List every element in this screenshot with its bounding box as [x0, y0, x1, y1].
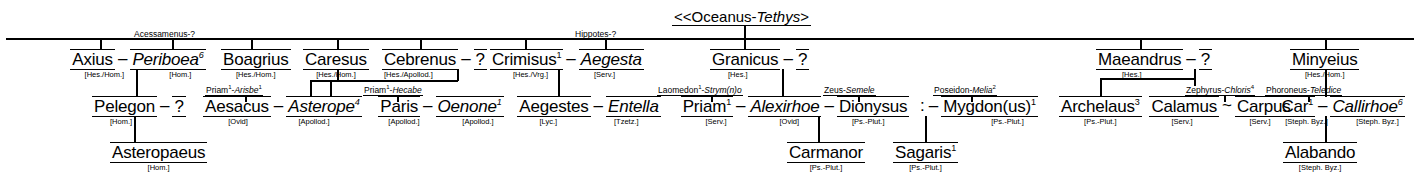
- node-car-sup: 1: [1308, 97, 1313, 107]
- node-axius-name: Axius: [70, 49, 115, 70]
- node-entella-name: Entella: [606, 96, 661, 117]
- node-carmanor: Carmanor [Ps.-Plut.]: [787, 142, 865, 172]
- connector-car-to-alabando: [1325, 116, 1327, 143]
- node-periboea-sup: 6: [199, 50, 204, 60]
- node-aegesta-name: Aegesta: [579, 49, 644, 70]
- connector-mygdon-to-sagaris: [925, 116, 927, 143]
- node-sagaris-sup: 1: [951, 143, 956, 153]
- source-car: [Steph. Byz.]: [1285, 117, 1328, 126]
- node-asterope-name: Asterope4: [286, 96, 361, 117]
- node-paris-name: Paris: [378, 96, 420, 117]
- caption-priam-hecabe-text: Priam1-Hecabe: [364, 85, 422, 95]
- node-callirhoe-name: Callirhoe6: [1330, 96, 1404, 117]
- caption-zephyrus-chloris: Zephyrus-Chloris4: [1185, 85, 1255, 96]
- caption-acessamenus-parents: Acessamenus-?: [133, 29, 196, 40]
- caption-phoroneus-teledice: Phoroneus-Teledice: [1265, 85, 1342, 96]
- caption-laomedon-strymno: Laomedon1-Strym(n)o: [657, 85, 743, 96]
- node-pelegon-name: Pelegon: [92, 96, 157, 117]
- source-cebrenus: [Hes./Apollod.]: [382, 70, 487, 79]
- caption-priam-arisbe-text: Priam1-Arisbe1: [206, 85, 262, 95]
- node-mygdon-sup: 1: [1031, 97, 1036, 107]
- union-dash-axius: –: [115, 49, 130, 68]
- union-dash-paris: –: [420, 96, 435, 115]
- node-pelegon: Pelegon–? [Hom.]: [92, 96, 186, 126]
- root-name-oceanus: Oceanus: [692, 8, 752, 25]
- source-aesacus: [Ovid]: [228, 117, 248, 126]
- connector-crimisus-to-aegestes: [558, 69, 560, 97]
- node-crimisus-sup: 1: [557, 50, 562, 60]
- source-aegestes: [Lyc.]: [539, 117, 557, 126]
- node-car-name: Car1: [1279, 96, 1315, 117]
- node-callirhoe-sup: 6: [1398, 97, 1403, 107]
- source-callirhoe: [Steph. Byz.]: [1356, 117, 1399, 126]
- node-alabando: Alabando [Steph. Byz.]: [1283, 142, 1357, 172]
- caption-poseidon-melia-text: Poseidon-Melia2: [934, 85, 996, 95]
- node-cebrenus-spouse: ?: [474, 49, 487, 70]
- caption-zeus-semele: Zeus-Semele: [823, 85, 876, 96]
- source-oenone: [Apollod.]: [462, 117, 493, 126]
- node-aegestes: Aegestes–Entella [Lyc.] [Tzetz.]: [511, 96, 667, 126]
- source-crimisus: [Hes./Vrg.]: [513, 70, 548, 79]
- node-cebrenus-name: Cebrenus: [382, 49, 458, 70]
- source-dionysus: [Ps.-Plut.]: [852, 117, 885, 126]
- source-alexirhoe: [Ovid]: [780, 117, 800, 126]
- node-mygdon-name: Mygdon(us)1: [941, 96, 1038, 117]
- union-dash-pelegon: –: [157, 96, 172, 115]
- source-sagaris: [Ps.-Plut.]: [893, 163, 958, 172]
- caption-priam-hecabe: Priam1-Hecabe: [363, 85, 423, 96]
- node-archelaus: Archelaus3 [Ps.-Plut.]: [1059, 96, 1142, 126]
- union-dash-aesacus: –: [271, 96, 286, 115]
- node-boagrius: Boagrius [Hes./Hom.]: [221, 49, 291, 79]
- caption-zephyrus-chloris-text: Zephyrus-Chloris4: [1186, 85, 1254, 95]
- source-boagrius: [Hes./Hom.]: [221, 70, 291, 79]
- node-boagrius-name: Boagrius: [221, 49, 291, 70]
- source-axius: [Hes./Hom.]: [85, 70, 125, 79]
- caption-laomedon-strymno-text: Laomedon1-Strym(n)o: [658, 85, 742, 95]
- node-asteropaeus-name: Asteropaeus: [110, 142, 207, 163]
- node-alexirhoe-name: Alexirhoe: [748, 96, 821, 117]
- source-priam: [Serv.]: [705, 117, 726, 126]
- node-granicus-spouse: ?: [796, 49, 809, 70]
- node-minyeius-name: Minyeius: [1290, 49, 1359, 70]
- source-carpus: [Serv.]: [1249, 117, 1270, 126]
- node-dionysus-name: Dionysus: [837, 96, 909, 117]
- connector-cebrenus-to-oenone: [330, 80, 332, 97]
- union-dash-granicus: –: [780, 49, 795, 68]
- union-tilde-calamus: ~: [1219, 96, 1235, 115]
- node-oenone-name: Oenone1: [436, 96, 504, 117]
- source-paris: [Apollod.]: [388, 117, 419, 126]
- node-maeandrus-name: Maeandrus: [1096, 49, 1183, 70]
- union-dash-cebrenus: –: [458, 49, 473, 68]
- node-cebrenus: Cebrenus–? [Hes./Apollod.]: [382, 49, 487, 79]
- union-dash-mygdon: –: [926, 96, 941, 115]
- node-alabando-name: Alabando: [1283, 142, 1357, 163]
- caption-hippotes-parents: Hippotes-?: [574, 29, 617, 40]
- connector-pelegon-to-asteropaeus: [134, 116, 136, 143]
- node-mygdon: :–Mygdon(us)1 [Ps.-Plut.]: [919, 96, 1038, 126]
- node-sagaris: Sagaris1 [Ps.-Plut.]: [893, 142, 958, 172]
- node-carmanor-name: Carmanor: [787, 142, 865, 163]
- node-maeandrus-spouse: ?: [1199, 49, 1212, 70]
- mygdon-prefix-colon: :: [919, 96, 926, 115]
- caption-phoroneus-teledice-text: Phoroneus-Teledice: [1266, 85, 1341, 95]
- source-granicus: [Hes.]: [710, 70, 809, 79]
- node-caresus: Caresus [Hes./Hom.]: [303, 49, 369, 79]
- root-suffix: >: [800, 8, 809, 25]
- connector-cebrenus-spouse-h: [330, 80, 458, 82]
- union-dash-priam: –: [733, 96, 748, 115]
- node-asterope-sup: 4: [355, 97, 360, 107]
- node-aesacus: Aesacus–Asterope4 [Ovid] [Apollod.]: [203, 96, 362, 126]
- root-node-oceanus-tethys: <<Oceanus-Tethys>: [672, 8, 811, 26]
- node-granicus-name: Granicus: [710, 49, 780, 70]
- connector-maeandrus-children-bus: [1100, 78, 1195, 80]
- source-caresus: [Hes./Hom.]: [303, 70, 369, 79]
- union-dash-aegestes: –: [591, 96, 606, 115]
- node-crimisus: Crimisus1–Aegesta [Hes./Vrg.] [Serv.]: [490, 49, 644, 79]
- connector-granicus-to-alexirhoe: [782, 69, 784, 97]
- connector-axius-to-pelegon: [136, 69, 138, 97]
- node-priam-name: Priam1: [681, 96, 733, 117]
- source-pelegon: [Hom.]: [92, 117, 186, 126]
- node-crimisus-name: Crimisus1: [490, 49, 563, 70]
- source-periboea: [Hom.]: [169, 70, 191, 79]
- node-pelegon-spouse: ?: [172, 96, 185, 117]
